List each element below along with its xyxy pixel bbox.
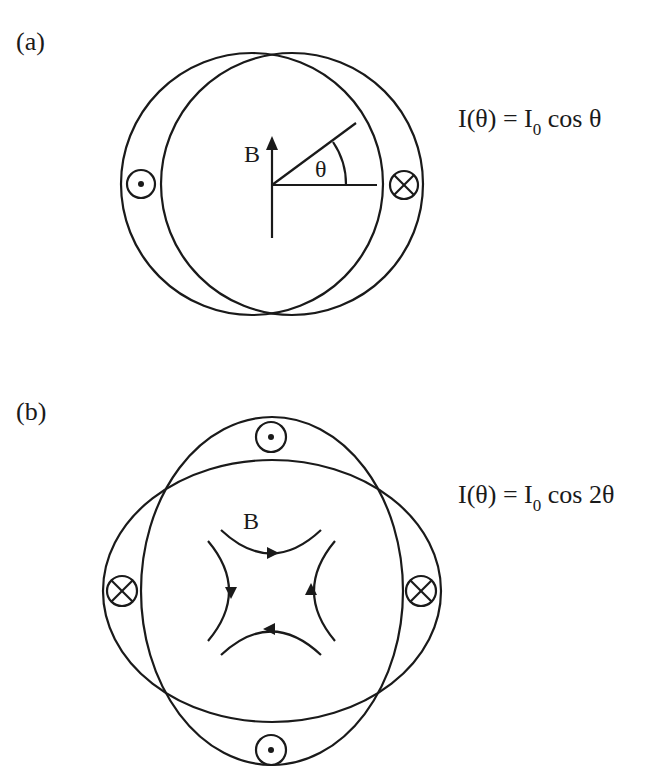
theta-label: θ [315,156,327,182]
coil-ellipse-horizontal [103,460,441,722]
angle-arc [333,142,346,185]
panel-a-label: (a) [16,27,45,56]
b-field-label-b: B [243,508,259,534]
current-in-icon-left [107,576,137,606]
panel-a: (a) B θ I(θ) = I0 cos θ [16,27,601,315]
b-field-arrow-icon [266,136,278,238]
b-field-label: B [244,141,260,167]
b-field-arrowheads-icon [225,547,317,635]
angle-ray [272,123,356,185]
current-in-icon [390,171,418,199]
coil-ellipse-vertical [141,417,403,765]
panel-b: (b) [16,397,614,765]
equation-a: I(θ) = I0 cos θ [458,104,601,139]
current-out-icon [127,170,155,198]
current-out-icon-bottom [256,735,286,765]
b-field-lines [208,530,335,655]
current-in-icon-right [406,576,436,606]
equation-b: I(θ) = I0 cos 2θ [458,480,614,515]
current-out-icon-top [256,422,286,452]
diagram-canvas: (a) B θ I(θ) = I0 cos θ (b) [0,0,662,783]
panel-b-label: (b) [16,397,46,426]
